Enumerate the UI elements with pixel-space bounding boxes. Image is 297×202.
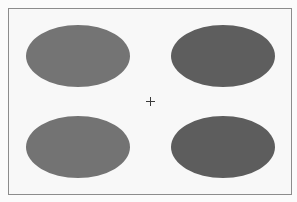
ellipse-top-left	[26, 25, 130, 87]
ellipse-top-right	[171, 25, 275, 87]
fixation-cross-vertical	[150, 97, 151, 106]
stimulus-display	[0, 0, 297, 202]
ellipse-bottom-left	[26, 116, 130, 178]
ellipse-bottom-right	[171, 116, 275, 178]
